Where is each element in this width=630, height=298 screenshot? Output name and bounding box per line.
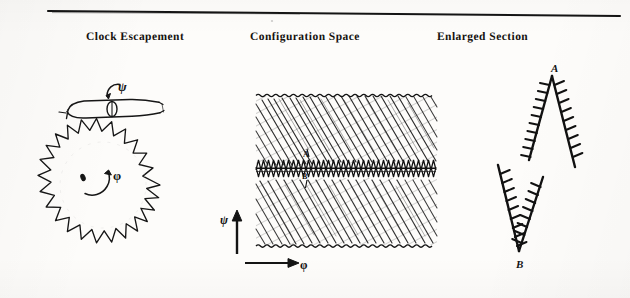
escape-wheel (38, 119, 160, 243)
vertex-b-label-enlarged: B (516, 258, 523, 270)
phi-axis-arrow (245, 259, 299, 268)
psi-axis-label: ψ (220, 213, 228, 228)
config-hatch-upper (256, 96, 437, 166)
config-top-boundary (256, 94, 432, 96)
heading-configuration-space: Configuration Space (250, 31, 360, 43)
phi-rotation-arrow (80, 170, 111, 195)
vertex-a-label-config: A (303, 150, 309, 159)
heading-enlarged-section: Enlarged Section (437, 31, 528, 43)
psi-axis-arrow (232, 210, 242, 254)
configuration-space-figure (232, 94, 437, 267)
config-bottom-boundary (256, 245, 432, 247)
escape-wheel-hub (60, 142, 146, 228)
figure-canvas (0, 0, 630, 298)
heading-clock-escapement: Clock Escapement (86, 31, 184, 43)
vertex-a-label-enlarged: A (551, 62, 558, 74)
config-hatch-lower (256, 178, 437, 245)
vertex-b-label-config: B (302, 172, 307, 181)
top-horizontal-rule (48, 11, 620, 22)
vertex-a-wedge (521, 76, 582, 167)
phi-axis-label: φ (300, 258, 308, 273)
enlarged-section-figure (498, 76, 582, 251)
figure-page: Clock Escapement Configuration Space Enl… (0, 0, 630, 298)
psi-label-escapement: ψ (118, 79, 127, 95)
phi-label-escapement: φ (113, 168, 121, 184)
pallet-fork (59, 99, 164, 118)
vertex-b-wedge (498, 165, 543, 251)
clock-escapement-figure (38, 84, 164, 243)
